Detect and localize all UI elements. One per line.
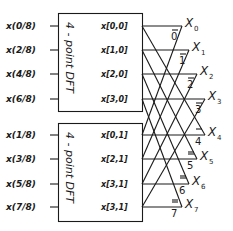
svg-text:6: 6 <box>201 183 206 191</box>
dft-output-label: x[0,0] <box>100 22 128 31</box>
dft-output-label: x[2,0] <box>100 70 128 79</box>
svg-text:1: 1 <box>201 49 205 57</box>
svg-text:2: 2 <box>209 73 213 81</box>
input-label: x(0/8) <box>5 21 36 31</box>
input-label: x(4/8) <box>5 69 36 79</box>
dft-output-label: x[3,1] <box>100 180 128 189</box>
svg-text:X: X <box>199 64 209 78</box>
dft-block-bottom-title: 4 - point DFT <box>63 132 76 204</box>
output-X7: X 7 <box>184 197 198 214</box>
svg-text:X: X <box>184 197 194 211</box>
output-X6: X 6 <box>191 174 206 191</box>
svg-text:X: X <box>191 40 201 54</box>
output-X3: X 3 <box>207 89 221 106</box>
twiddle-1: 1 <box>179 55 185 66</box>
svg-text:X: X <box>199 149 209 163</box>
twiddle-0: 0 <box>171 31 177 42</box>
output-X0: X 0 <box>184 16 198 33</box>
twiddle-6: 6 <box>179 185 185 196</box>
svg-text:5: 5 <box>209 158 213 166</box>
input-label: x(1/8) <box>5 130 36 140</box>
output-X2: X 2 <box>199 64 213 81</box>
input-label: x(5/8) <box>5 179 36 189</box>
svg-text:X: X <box>207 89 217 103</box>
output-X4: X 4 <box>207 125 222 142</box>
twiddle-5: 5 <box>187 160 193 171</box>
svg-text:3: 3 <box>217 98 221 106</box>
input-label: x(6/8) <box>5 94 36 104</box>
dft-output-label: x[1,0] <box>100 46 128 55</box>
svg-text:7: 7 <box>194 206 198 214</box>
input-label: x(2/8) <box>5 45 36 55</box>
input-label: x(7/8) <box>5 202 36 212</box>
input-label: x(3/8) <box>5 154 36 164</box>
dft-output-label: x[3,0] <box>100 95 128 104</box>
twiddle-3: 3 <box>195 104 201 115</box>
output-X1: X 1 <box>191 40 205 57</box>
svg-text:X: X <box>191 174 201 188</box>
fft-butterfly-diagram: 4 - point DFT 4 - point DFT x(0/8) x(2/8… <box>0 0 233 231</box>
svg-text:X: X <box>207 125 217 139</box>
dft-output-label: x[2,1] <box>100 155 128 164</box>
dft-block-top-title: 4 - point DFT <box>63 22 76 94</box>
output-X5: X 5 <box>199 149 213 166</box>
svg-text:0: 0 <box>194 25 198 33</box>
twiddle-7: 7 <box>171 208 177 219</box>
twiddle-4: 4 <box>195 136 201 147</box>
dft-output-label: x[0,1] <box>100 131 128 140</box>
svg-text:4: 4 <box>217 134 222 142</box>
svg-text:X: X <box>184 16 194 30</box>
dft-output-label: x[3,1] <box>100 203 128 212</box>
twiddle-2: 2 <box>187 79 193 90</box>
